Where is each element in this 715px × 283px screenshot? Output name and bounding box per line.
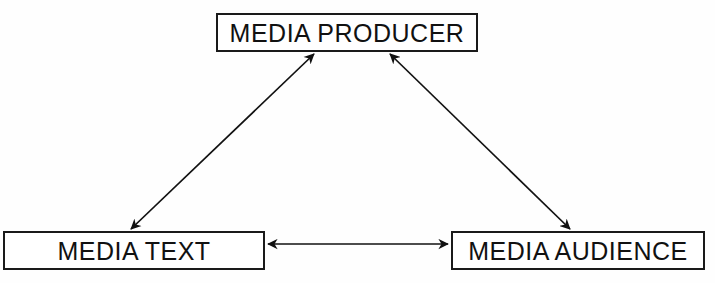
connector-producer-audience bbox=[390, 54, 570, 229]
node-media-text: MEDIA TEXT bbox=[3, 231, 265, 270]
node-media-producer-label: MEDIA PRODUCER bbox=[230, 19, 465, 46]
node-media-audience: MEDIA AUDIENCE bbox=[451, 231, 705, 270]
media-triangle-diagram: MEDIA PRODUCER MEDIA TEXT MEDIA AUDIENCE bbox=[0, 0, 715, 283]
node-media-text-label: MEDIA TEXT bbox=[57, 237, 210, 264]
node-media-producer: MEDIA PRODUCER bbox=[216, 13, 478, 52]
node-media-audience-label: MEDIA AUDIENCE bbox=[468, 237, 688, 264]
connector-text-producer bbox=[131, 54, 314, 229]
